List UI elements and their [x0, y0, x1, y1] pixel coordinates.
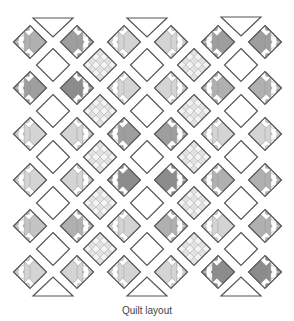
- checker-block: [84, 233, 117, 266]
- pieced-block: [249, 164, 282, 197]
- pieced-block: [249, 210, 282, 243]
- pieced-block: [249, 72, 282, 105]
- pieced-block: [155, 72, 188, 105]
- pieced-block: [202, 72, 235, 105]
- patch: [131, 187, 164, 220]
- pieced-block: [61, 256, 94, 289]
- pieced-block: [202, 210, 235, 243]
- pieced-block: [249, 118, 282, 151]
- plain-block: [37, 233, 70, 266]
- plain-block: [131, 141, 164, 174]
- patch: [225, 95, 258, 128]
- patch: [131, 95, 164, 128]
- pieced-block: [14, 26, 47, 59]
- plain-block: [37, 95, 70, 128]
- pieced-block: [108, 72, 141, 105]
- checker-block: [84, 95, 117, 128]
- pieced-block: [108, 210, 141, 243]
- plain-block: [131, 233, 164, 266]
- checker-block: [84, 49, 117, 82]
- patch: [225, 141, 258, 174]
- caption: Quilt layout: [0, 305, 294, 316]
- patch: [37, 187, 70, 220]
- patch: [37, 141, 70, 174]
- pieced-block: [61, 118, 94, 151]
- plain-block: [225, 95, 258, 128]
- patch: [131, 141, 164, 174]
- pieced-block: [14, 72, 47, 105]
- patch: [131, 49, 164, 82]
- checker-block: [178, 187, 211, 220]
- patch: [37, 95, 70, 128]
- plain-block: [37, 187, 70, 220]
- plain-block: [131, 95, 164, 128]
- plain-block: [37, 49, 70, 82]
- pieced-block: [155, 164, 188, 197]
- checker-block: [84, 141, 117, 174]
- pieced-block: [108, 26, 141, 59]
- pieced-block: [202, 256, 235, 289]
- patch: [225, 187, 258, 220]
- pieced-block: [108, 256, 141, 289]
- pieced-block: [202, 118, 235, 151]
- pieced-block: [202, 26, 235, 59]
- checker-block: [178, 95, 211, 128]
- pieced-block: [14, 256, 47, 289]
- checker-block: [178, 233, 211, 266]
- plain-block: [131, 187, 164, 220]
- plain-block: [225, 49, 258, 82]
- checker-block: [178, 49, 211, 82]
- plain-block: [225, 233, 258, 266]
- patch: [225, 233, 258, 266]
- pieced-block: [61, 210, 94, 243]
- plain-block: [131, 49, 164, 82]
- quilt-layout-diagram: [0, 0, 294, 300]
- patch: [225, 49, 258, 82]
- pieced-block: [249, 256, 282, 289]
- checker-block: [84, 187, 117, 220]
- setting-triangle-top: [221, 17, 261, 36]
- pieced-block: [155, 210, 188, 243]
- pieced-block: [14, 164, 47, 197]
- pieced-block: [202, 164, 235, 197]
- pieced-block: [14, 118, 47, 151]
- plain-block: [225, 141, 258, 174]
- plain-block: [225, 187, 258, 220]
- pieced-block: [155, 118, 188, 151]
- pieced-block: [61, 26, 94, 59]
- pieced-block: [61, 72, 94, 105]
- pieced-block: [108, 118, 141, 151]
- pieced-block: [249, 26, 282, 59]
- patch: [37, 49, 70, 82]
- pieced-block: [155, 256, 188, 289]
- pieced-block: [14, 210, 47, 243]
- pieced-block: [61, 164, 94, 197]
- patch: [37, 233, 70, 266]
- pieced-block: [108, 164, 141, 197]
- patch: [131, 233, 164, 266]
- pieced-block: [155, 26, 188, 59]
- checker-block: [178, 141, 211, 174]
- plain-block: [37, 141, 70, 174]
